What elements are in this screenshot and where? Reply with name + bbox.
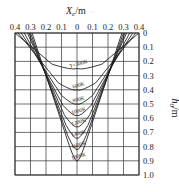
x-tick-label: 0.2 <box>41 22 52 32</box>
temperature-contour-chart: Xe/m 0.40.30.20.100.10.20.30.4 00.10.20.… <box>0 0 179 192</box>
curve-label: 1400K <box>70 128 86 138</box>
y-tick-label: 0.8 <box>143 142 154 152</box>
y-tick-label: 0.1 <box>143 42 154 52</box>
curve-label: 1800K <box>70 151 86 161</box>
curve-label: 600K <box>72 80 85 89</box>
x-axis-ticks: 0.40.30.20.100.10.20.30.4 <box>10 22 145 32</box>
y-tick-label: 0 <box>143 28 147 38</box>
y-axis-ticks: 00.10.20.30.40.50.60.70.80.91.0 <box>143 28 154 180</box>
y-tick-label: 0.9 <box>143 156 154 166</box>
curve-labels: T=300K600K800K1000K1200K1400K1600K1800K <box>69 58 89 160</box>
y-tick-label: 0.2 <box>143 56 154 66</box>
x-tick-label: 0.4 <box>10 22 21 32</box>
y-tick-label: 0.6 <box>143 113 154 123</box>
curve-label: 1000K <box>70 106 86 116</box>
x-tick-label: 0.3 <box>25 22 36 32</box>
y-tick-label: 1.0 <box>143 170 154 180</box>
y-tick-label: 0.3 <box>143 71 154 81</box>
y-tick-label: 0.4 <box>143 85 154 95</box>
y-axis-label: h0/m <box>168 98 179 117</box>
x-tick-label: 0.2 <box>103 22 114 32</box>
y-tick-label: 0.5 <box>143 99 154 109</box>
x-axis-label: Xe/m <box>65 5 86 18</box>
curve-label: T=300K <box>69 58 89 69</box>
x-tick-label: 0.1 <box>56 22 67 32</box>
x-tick-label: 0.3 <box>118 22 129 32</box>
y-tick-label: 0.7 <box>143 127 154 137</box>
x-tick-label: 0 <box>75 22 79 32</box>
x-tick-label: 0.1 <box>87 22 98 32</box>
